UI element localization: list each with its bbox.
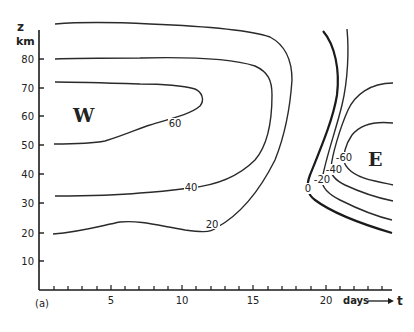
svg-text:10: 10 bbox=[21, 256, 34, 267]
svg-text:40: 40 bbox=[21, 169, 34, 180]
svg-text:70: 70 bbox=[21, 83, 34, 94]
svg-text:0: 0 bbox=[305, 183, 311, 194]
x-tick-labels: 5 10 15 20 bbox=[108, 295, 333, 306]
svg-text:5: 5 bbox=[108, 295, 114, 306]
panel-label: (a) bbox=[35, 298, 49, 309]
svg-text:15: 15 bbox=[247, 295, 260, 306]
svg-text:10: 10 bbox=[176, 295, 189, 306]
x-axis-variable: t bbox=[397, 294, 403, 308]
svg-text:20: 20 bbox=[206, 219, 219, 230]
svg-text:20: 20 bbox=[21, 228, 34, 239]
svg-text:-20: -20 bbox=[314, 174, 330, 185]
svg-text:60: 60 bbox=[21, 111, 34, 122]
y-axis-variable: z bbox=[17, 20, 24, 34]
contour-neg20 bbox=[322, 29, 392, 220]
y-axis-unit: km bbox=[16, 35, 35, 48]
y-tick-labels: 80 70 60 50 40 30 20 10 bbox=[21, 54, 34, 267]
svg-text:60: 60 bbox=[169, 118, 182, 129]
contour-chart: z km 80 70 60 50 40 30 20 10 5 10 15 20 … bbox=[0, 0, 414, 332]
svg-text:-60: -60 bbox=[336, 152, 352, 163]
svg-text:80: 80 bbox=[21, 54, 34, 65]
region-label-east: E bbox=[368, 148, 382, 170]
svg-text:30: 30 bbox=[21, 198, 34, 209]
arrow-head-icon bbox=[388, 298, 394, 304]
x-axis-label: days bbox=[343, 295, 369, 306]
contour-0 bbox=[308, 31, 392, 233]
contours bbox=[53, 23, 393, 235]
svg-text:40: 40 bbox=[185, 182, 198, 193]
svg-text:50: 50 bbox=[21, 140, 34, 151]
contour-40 bbox=[55, 58, 272, 196]
svg-text:-40: -40 bbox=[326, 164, 342, 175]
region-label-west: W bbox=[72, 104, 95, 126]
svg-text:20: 20 bbox=[320, 295, 333, 306]
